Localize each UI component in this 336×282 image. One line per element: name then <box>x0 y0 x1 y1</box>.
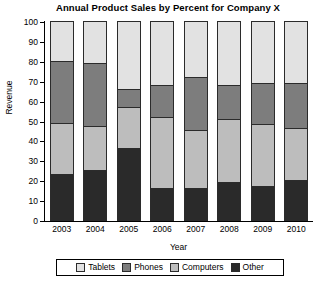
legend-item-tablets[interactable]: Tablets <box>76 263 115 272</box>
bar-column[interactable] <box>251 22 275 221</box>
y-tick-label: 70 <box>12 78 38 87</box>
bar-segment-other[interactable] <box>83 170 107 221</box>
x-tick-label-2008: 2008 <box>212 225 246 234</box>
x-tick-label-2004: 2004 <box>78 225 112 234</box>
y-tick-label: 100 <box>12 18 38 27</box>
bar-segment-tablets[interactable] <box>251 21 275 84</box>
bar-segment-phones[interactable] <box>251 83 275 126</box>
plot-area <box>45 22 313 221</box>
bar-segment-computers[interactable] <box>217 119 241 184</box>
x-tick-label-2009: 2009 <box>246 225 280 234</box>
legend-item-other[interactable]: Other <box>231 263 264 272</box>
bar-segment-computers[interactable] <box>83 126 107 171</box>
chart-legend: TabletsPhonesComputersOther <box>56 259 284 276</box>
bar-segment-computers[interactable] <box>50 123 74 176</box>
y-tick-label: 20 <box>12 177 38 186</box>
y-tick-label: 50 <box>12 118 38 127</box>
x-tick-label-2005: 2005 <box>112 225 146 234</box>
y-tick-mark <box>40 102 44 103</box>
y-tick-label: 80 <box>12 58 38 67</box>
y-tick-mark <box>40 122 44 123</box>
bar-segment-other[interactable] <box>50 174 74 221</box>
bar-column[interactable] <box>217 22 241 221</box>
bar-column[interactable] <box>83 22 107 221</box>
x-axis-title: Year <box>44 243 313 252</box>
bar-segment-tablets[interactable] <box>50 21 74 62</box>
legend-label: Computers <box>182 263 224 272</box>
bar-column[interactable] <box>184 22 208 221</box>
x-axis-line <box>44 221 313 222</box>
bar-segment-computers[interactable] <box>284 128 308 181</box>
y-axis-title: Revenue <box>5 58 14 138</box>
legend-label: Phones <box>134 263 163 272</box>
bar-segment-tablets[interactable] <box>83 21 107 64</box>
bar-column[interactable] <box>150 22 174 221</box>
bar-segment-tablets[interactable] <box>150 21 174 86</box>
x-tick-label-2006: 2006 <box>145 225 179 234</box>
bar-segment-phones[interactable] <box>284 83 308 130</box>
bar-segment-computers[interactable] <box>251 124 275 187</box>
legend-item-phones[interactable]: Phones <box>122 263 163 272</box>
legend-label: Other <box>243 263 264 272</box>
bar-segment-other[interactable] <box>184 188 208 221</box>
bar-segment-phones[interactable] <box>184 77 208 132</box>
bar-segment-tablets[interactable] <box>217 21 241 86</box>
y-tick-mark <box>40 82 44 83</box>
y-tick-label: 40 <box>12 137 38 146</box>
legend-item-computers[interactable]: Computers <box>170 263 224 272</box>
y-tick-mark <box>40 62 44 63</box>
bar-segment-other[interactable] <box>150 188 174 221</box>
bar-column[interactable] <box>284 22 308 221</box>
bar-segment-phones[interactable] <box>117 89 141 108</box>
y-tick-mark <box>40 22 44 23</box>
bar-segment-tablets[interactable] <box>184 21 208 78</box>
legend-swatch-computers <box>170 263 179 272</box>
y-tick-mark <box>40 141 44 142</box>
bar-column[interactable] <box>50 22 74 221</box>
legend-swatch-phones <box>122 263 131 272</box>
y-tick-label: 30 <box>12 157 38 166</box>
bar-segment-tablets[interactable] <box>117 21 141 90</box>
y-tick-mark <box>40 201 44 202</box>
bar-segment-other[interactable] <box>117 148 141 221</box>
bar-segment-other[interactable] <box>217 182 241 221</box>
stacked-bar-chart: Annual Product Sales by Percent for Comp… <box>0 0 336 282</box>
chart-title: Annual Product Sales by Percent for Comp… <box>0 2 336 14</box>
y-tick-label: 60 <box>12 98 38 107</box>
bar-segment-phones[interactable] <box>50 61 74 124</box>
legend-swatch-other <box>231 263 240 272</box>
y-tick-mark <box>40 161 44 162</box>
y-tick-mark <box>40 221 44 222</box>
bar-column[interactable] <box>117 22 141 221</box>
bar-segment-phones[interactable] <box>150 85 174 118</box>
x-tick-label-2010: 2010 <box>279 225 313 234</box>
legend-label: Tablets <box>88 263 115 272</box>
bar-segment-tablets[interactable] <box>284 21 308 84</box>
y-tick-mark <box>40 42 44 43</box>
bar-segment-phones[interactable] <box>83 63 107 128</box>
bar-segment-phones[interactable] <box>217 85 241 120</box>
bar-segment-other[interactable] <box>284 180 308 221</box>
y-tick-label: 90 <box>12 38 38 47</box>
y-tick-mark <box>40 181 44 182</box>
y-tick-label: 10 <box>12 197 38 206</box>
bar-segment-computers[interactable] <box>150 117 174 190</box>
x-tick-label-2007: 2007 <box>179 225 213 234</box>
legend-swatch-tablets <box>76 263 85 272</box>
bar-segment-computers[interactable] <box>117 107 141 150</box>
bar-segment-computers[interactable] <box>184 130 208 189</box>
bar-segment-other[interactable] <box>251 186 275 221</box>
x-tick-label-2003: 2003 <box>45 225 79 234</box>
y-tick-label: 0 <box>12 217 38 226</box>
